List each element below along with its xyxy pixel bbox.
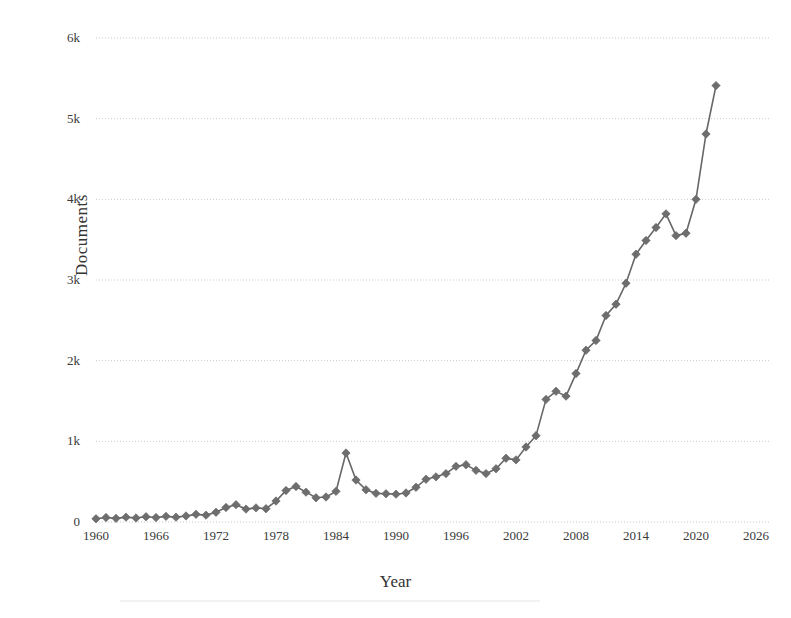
data-point-marker <box>372 489 380 497</box>
data-markers <box>92 81 720 523</box>
x-axis-tick-label: 1966 <box>129 528 183 544</box>
data-point-marker <box>332 487 340 495</box>
data-point-marker <box>232 500 240 508</box>
x-axis-tick-label: 1978 <box>249 528 303 544</box>
data-point-marker <box>692 195 700 203</box>
data-point-marker <box>202 511 210 519</box>
data-point-marker <box>102 513 110 521</box>
x-axis-tick-label: 2020 <box>669 528 723 544</box>
data-point-marker <box>132 514 140 522</box>
data-point-marker <box>712 81 720 89</box>
data-point-marker <box>322 493 330 501</box>
data-point-marker <box>302 488 310 496</box>
data-point-marker <box>162 512 170 520</box>
data-point-marker <box>242 505 250 513</box>
plot-area <box>0 0 791 618</box>
gridlines <box>96 38 770 522</box>
data-point-marker <box>382 490 390 498</box>
data-point-marker <box>472 466 480 474</box>
x-axis-tick-label: 1960 <box>69 528 123 544</box>
data-point-marker <box>462 461 470 469</box>
x-axis-tick-label: 2002 <box>489 528 543 544</box>
data-point-marker <box>252 504 260 512</box>
data-point-marker <box>122 513 130 521</box>
x-axis-tick-label: 2014 <box>609 528 663 544</box>
data-point-marker <box>172 513 180 521</box>
data-line <box>96 86 716 519</box>
data-point-marker <box>392 490 400 498</box>
x-axis-tick-label: 1972 <box>189 528 243 544</box>
data-point-marker <box>432 473 440 481</box>
data-point-marker <box>312 494 320 502</box>
data-point-marker <box>682 229 690 237</box>
data-point-marker <box>482 469 490 477</box>
documents-per-year-chart: Documents 01k2k3k4k5k6k 1960196619721978… <box>0 0 791 618</box>
data-point-marker <box>192 510 200 518</box>
data-point-marker <box>562 392 570 400</box>
x-axis-tick-label: 1990 <box>369 528 423 544</box>
data-point-marker <box>292 482 300 490</box>
x-axis-tick-label: 2008 <box>549 528 603 544</box>
x-axis-tick-label: 2026 <box>729 528 783 544</box>
data-point-marker <box>622 279 630 287</box>
x-axis-tick-label: 1984 <box>309 528 363 544</box>
data-point-marker <box>702 130 710 138</box>
data-point-marker <box>672 231 680 239</box>
data-series-documents <box>92 81 720 523</box>
data-point-marker <box>92 515 100 523</box>
x-axis-tick-label: 1996 <box>429 528 483 544</box>
x-axis-title: Year <box>0 572 791 592</box>
data-point-marker <box>152 513 160 521</box>
data-point-marker <box>572 369 580 377</box>
data-point-marker <box>212 508 220 516</box>
data-point-marker <box>142 513 150 521</box>
data-point-marker <box>112 514 120 522</box>
data-point-marker <box>342 449 350 457</box>
data-point-marker <box>182 512 190 520</box>
data-point-marker <box>402 489 410 497</box>
data-point-marker <box>222 503 230 511</box>
